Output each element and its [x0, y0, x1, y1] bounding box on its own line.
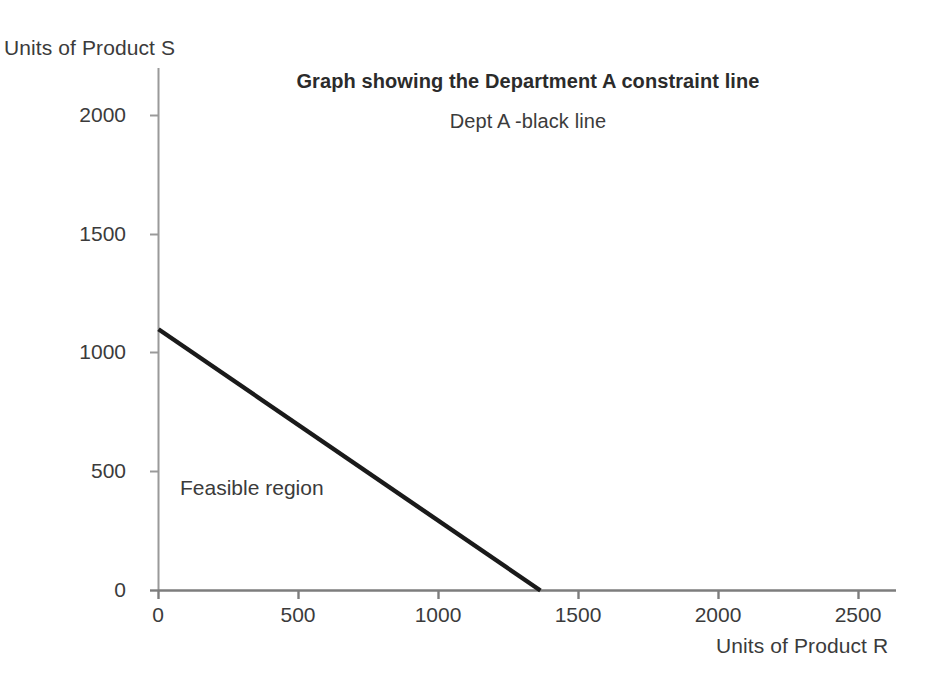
- constraint-line-dept-a: [159, 329, 541, 590]
- constraint-line-chart: Units of Product S Graph showing the Dep…: [0, 0, 938, 683]
- y-tick-marks: [150, 116, 158, 591]
- x-tick-label-2000: 2000: [668, 603, 768, 627]
- feasible-region-label: Feasible region: [180, 476, 324, 500]
- y-tick-label-0: 0: [40, 578, 126, 602]
- x-tick-label-1000: 1000: [388, 603, 488, 627]
- x-tick-label-0: 0: [108, 603, 208, 627]
- y-tick-label-1500: 1500: [40, 222, 126, 246]
- plot-area: [0, 0, 938, 683]
- y-tick-label-2000: 2000: [40, 103, 126, 127]
- x-tick-label-500: 500: [248, 603, 348, 627]
- y-tick-label-500: 500: [40, 459, 126, 483]
- x-tick-label-1500: 1500: [528, 603, 628, 627]
- y-tick-label-1000: 1000: [40, 340, 126, 364]
- x-tick-label-2500: 2500: [808, 603, 908, 627]
- x-axis-title: Units of Product R: [716, 634, 888, 658]
